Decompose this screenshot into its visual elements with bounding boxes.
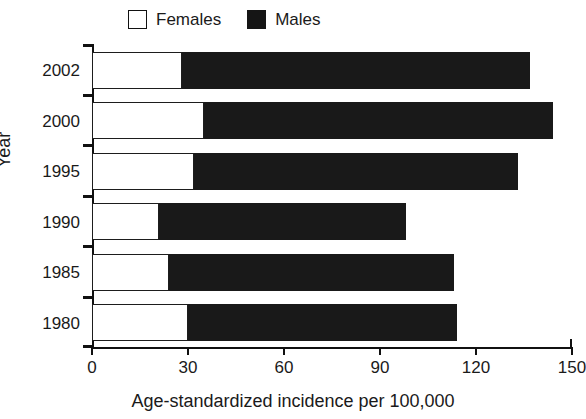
y-axis-tick	[83, 245, 92, 248]
legend-swatch-open-square-icon	[128, 10, 147, 29]
bar-segment-males	[188, 304, 457, 341]
legend-label-females: Females	[156, 11, 221, 28]
stacked-bar-chart: Females Males 03060901201502002200019951…	[0, 0, 586, 419]
y-axis-tick	[83, 144, 92, 147]
y-axis-tick	[83, 195, 92, 198]
y-axis-tick	[83, 296, 92, 299]
bar-segment-females	[92, 153, 194, 190]
chart-legend: Females Males	[128, 6, 321, 32]
x-axis-tick-label: 30	[179, 358, 198, 377]
bar-segment-females	[92, 52, 182, 89]
legend-entry-males: Males	[247, 10, 320, 29]
x-axis-tick-label: 60	[275, 358, 294, 377]
bar-row: 1980	[92, 304, 457, 341]
bar-segment-males	[204, 102, 553, 139]
x-axis-tick-label: 120	[462, 358, 490, 377]
bar-segment-males	[182, 52, 531, 89]
bar-row: 1995	[92, 153, 518, 190]
x-axis-tick-label: 150	[558, 358, 586, 377]
y-axis-line	[92, 44, 94, 347]
x-axis-tick	[379, 347, 381, 355]
bar-row: 2002	[92, 52, 530, 89]
bar-segment-males	[159, 203, 405, 240]
y-axis-bottom-endcap	[83, 345, 92, 348]
x-axis-title: Age-standardized incidence per 100,000	[0, 391, 586, 411]
x-axis-line	[92, 347, 572, 349]
bar-row: 1990	[92, 203, 406, 240]
x-axis-tick	[91, 347, 93, 355]
x-axis-tick	[475, 347, 477, 355]
bar-row: 2000	[92, 102, 553, 139]
y-axis-category-label: 2000	[42, 111, 80, 130]
y-axis-category-label: 1990	[42, 212, 80, 231]
y-axis-tick	[83, 94, 92, 97]
bar-row: 1985	[92, 254, 454, 291]
bar-segment-males	[169, 254, 454, 291]
legend-label-males: Males	[275, 11, 320, 28]
legend-entry-females: Females	[128, 10, 221, 29]
plot-area: 0306090120150200220001995199019851980	[92, 44, 572, 347]
y-axis-category-label: 1985	[42, 263, 80, 282]
y-axis-title: Year	[0, 132, 14, 168]
y-axis-category-label: 1980	[42, 313, 80, 332]
y-axis-top-endcap	[83, 44, 92, 47]
legend-swatch-filled-square-icon	[247, 10, 266, 29]
y-axis-category-label: 2002	[42, 61, 80, 80]
x-axis-tick	[283, 347, 285, 355]
x-axis-tick	[187, 347, 189, 355]
bar-segment-females	[92, 203, 159, 240]
x-axis-tick-label: 90	[371, 358, 390, 377]
x-axis-tick	[571, 347, 573, 355]
x-axis-tick-label: 0	[87, 358, 96, 377]
bar-segment-females	[92, 254, 169, 291]
bar-segment-males	[194, 153, 517, 190]
bar-segment-females	[92, 102, 204, 139]
y-axis-category-label: 1995	[42, 162, 80, 181]
bar-segment-females	[92, 304, 188, 341]
